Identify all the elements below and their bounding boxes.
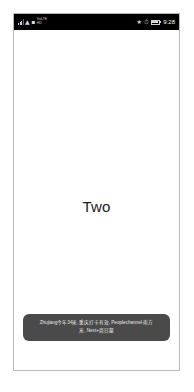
status-bar: ▲ ▪ VoLTE HD ★ ⏱ 9:28: [14, 14, 179, 30]
toast-line-1: Zhujiang今年34米,重庆打卡有效, Peoplechannel-南方: [30, 319, 163, 327]
hd-label: HD: [37, 22, 48, 26]
toast-line-2: 米, Next+周日赢: [30, 327, 163, 335]
sim-icon: ▪: [31, 19, 35, 25]
signal-icon: [18, 19, 24, 25]
battery-icon: [151, 20, 161, 25]
alarm-icon: ⏱: [144, 19, 149, 25]
wifi-icon: ▲: [25, 19, 30, 25]
bluetooth-icon: ★: [137, 19, 142, 25]
app-content: Two Zhujiang今年34米,重庆打卡有效, Peoplechannel-…: [14, 30, 179, 370]
volte-indicator: VoLTE HD: [37, 18, 48, 26]
device-frame: ▲ ▪ VoLTE HD ★ ⏱ 9:28 Two Zhujiang今年34米,…: [13, 13, 180, 371]
status-bar-right: ★ ⏱ 9:28: [137, 19, 175, 25]
status-bar-clock: 9:28: [163, 19, 175, 25]
toast-message: Zhujiang今年34米,重庆打卡有效, Peoplechannel-南方 米…: [23, 314, 170, 341]
page-title: Two: [14, 198, 179, 215]
status-bar-left: ▲ ▪ VoLTE HD: [18, 18, 47, 26]
